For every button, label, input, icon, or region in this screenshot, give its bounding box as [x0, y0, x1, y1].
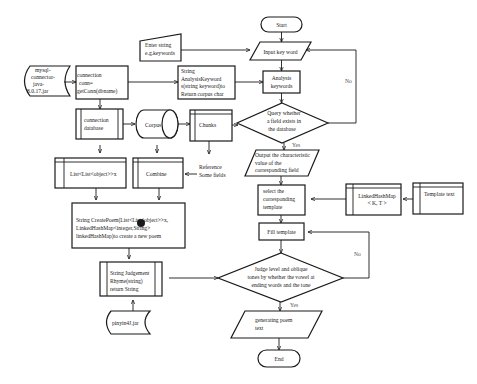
- query-line3: the database: [268, 126, 296, 132]
- corpus-storage: Corpus: [136, 110, 178, 138]
- end-terminal: End: [258, 350, 300, 367]
- judge-yes-label: Yes: [290, 302, 298, 308]
- enter-string-manual-input: Enter string e.g.keywords: [140, 34, 181, 61]
- reference-line1: Reference: [199, 164, 222, 170]
- select-line3: template: [263, 204, 283, 210]
- mysql-jar-stored-data: mysql- connector- java- 8.0.17.jar: [25, 66, 71, 96]
- chunks-storage: Chunks: [190, 110, 232, 141]
- edge-query-no: [306, 50, 356, 123]
- template-text-label: Template text: [424, 191, 455, 197]
- fill-template-label: Fill template: [267, 229, 296, 235]
- connection-database-line1: connection: [84, 117, 109, 123]
- enter-string-line2: e.g.keywords: [145, 50, 175, 56]
- judge-no-label: No: [354, 251, 361, 257]
- pinyin-label: pinyin4J.jar: [112, 320, 139, 326]
- generating-line2: text: [255, 325, 264, 331]
- mysql-line3: java-: [32, 81, 44, 87]
- select-line2: corresponding: [263, 196, 295, 202]
- enter-string-line1: Enter string: [145, 42, 171, 48]
- analysis-keywords-line2: keywords: [271, 83, 293, 89]
- judgement-rhyme-subprocess: String Judgement Rhyme(string) return St…: [100, 262, 162, 296]
- judge-line2: tones by whether the vowel at: [248, 274, 315, 280]
- list-list-subprocess: List<List<object>>x: [55, 158, 126, 188]
- query-yes-label: Yes: [292, 142, 300, 148]
- end-label: End: [274, 356, 283, 362]
- mysql-line1: mysql-: [35, 67, 51, 73]
- input-keyword-label: Input key word: [263, 49, 297, 55]
- output-value-io: Output the characteristic value of the c…: [245, 150, 319, 176]
- linked-hashmap-storage: LinkedHashMap < K, T >: [346, 184, 401, 215]
- string-analysis-line4: Return corpus char: [181, 91, 224, 97]
- list-list-label: List<List<object>>x: [70, 171, 117, 177]
- ink-blot: [137, 219, 145, 227]
- string-analysis-process: String AnalysisKeyword s(string keyword)…: [178, 66, 235, 99]
- query-line2: a field exists in: [267, 118, 301, 124]
- output-line3: corresponding field: [255, 167, 299, 173]
- linked-hashmap-line2: < K, T >: [367, 200, 386, 206]
- input-keyword-io: Input key word: [250, 42, 311, 60]
- combine-subprocess: Combine: [133, 158, 183, 188]
- pinyin-jar-stored-data: pinyin4J.jar: [107, 311, 151, 334]
- connection-database-line2: database: [84, 125, 104, 131]
- corpus-label: Corpus: [145, 122, 161, 128]
- query-no-label: No: [345, 78, 352, 84]
- reference-fields-annotation: Reference Some fields: [199, 164, 226, 178]
- start-label: Start: [276, 22, 287, 28]
- judge-tones-decision: Judge level and oblique tones by whether…: [218, 253, 343, 302]
- reference-line2: Some fields: [199, 172, 226, 178]
- query-line1: Query whether: [267, 110, 301, 116]
- combine-label: Combine: [146, 171, 167, 177]
- connection-process: connection conn= getConn(dbname): [76, 66, 128, 99]
- string-analysis-line2: AnalysisKeyword: [181, 76, 222, 82]
- judge-line1: Judge level and oblique: [255, 266, 308, 272]
- output-line1: Output the characteristic: [255, 152, 310, 158]
- connection-database-subprocess: connection database: [76, 109, 123, 139]
- judge-line3: ending words and the tone: [251, 282, 311, 288]
- query-field-decision: Query whether a field exists in the data…: [237, 103, 328, 143]
- output-line2: value of the: [255, 160, 282, 166]
- analysis-keywords-process: Analysis keywords: [263, 71, 300, 93]
- connection-line3: getConn(dbname): [77, 88, 118, 95]
- start-terminal: Start: [261, 17, 302, 32]
- connection-line2: conn=: [79, 80, 93, 86]
- judgement-line2: Rhyme(string): [110, 278, 143, 285]
- linked-hashmap-line1: LinkedHashMap: [358, 193, 396, 199]
- select-line1: select the: [263, 188, 284, 194]
- mysql-line2: connector-: [31, 74, 55, 80]
- fill-template-process: Fill template: [259, 223, 304, 240]
- connection-line1: connection: [77, 72, 102, 78]
- flowchart: Start Input key word Analysis keywords Q…: [0, 0, 477, 384]
- chunks-label: Chunks: [199, 122, 216, 128]
- generating-poem-io: generating poem text: [231, 311, 322, 338]
- analysis-keywords-line1: Analysis: [272, 75, 292, 81]
- create-poem-line1: String CreatePoem(List<List<object>>x,: [76, 217, 169, 224]
- judgement-line1: String Judgement: [110, 270, 150, 276]
- select-template-process: select the corresponding template: [258, 185, 305, 215]
- create-poem-line3: linkedHashMap)to create a new poem: [76, 233, 162, 240]
- template-text-storage: Template text: [413, 183, 463, 214]
- string-analysis-line3: s(string keyword)to: [181, 83, 225, 90]
- mysql-line4: 8.0.17.jar: [27, 88, 48, 94]
- judgement-line3: return String: [110, 286, 139, 292]
- string-analysis-line1: String: [181, 68, 195, 74]
- create-poem-process: String CreatePoem(List<List<object>>x, L…: [72, 203, 185, 248]
- generating-line1: generating poem: [255, 317, 293, 323]
